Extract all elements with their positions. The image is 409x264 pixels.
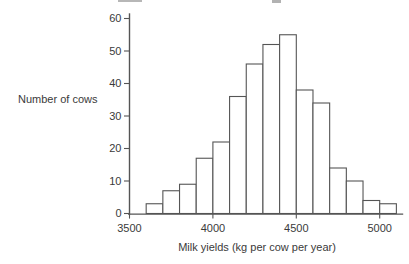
svg-text:20: 20 [109, 142, 121, 154]
histogram-bar [280, 35, 297, 214]
svg-text:40: 40 [109, 77, 121, 89]
histogram-bar [213, 142, 230, 214]
histogram-bar [196, 158, 213, 213]
histogram-bar [246, 64, 263, 214]
histogram-bar [263, 45, 280, 214]
histogram-bar [363, 201, 380, 214]
svg-text:10: 10 [109, 175, 121, 187]
histogram-bar [380, 204, 397, 214]
histogram-bar [146, 204, 163, 214]
svg-text:4000: 4000 [201, 222, 225, 234]
histogram-figure: Number of cows 0102030405060350040004500… [0, 0, 409, 264]
svg-text:5000: 5000 [367, 222, 391, 234]
histogram-bar [346, 181, 363, 214]
histogram-bar [180, 184, 197, 213]
svg-text:4500: 4500 [284, 222, 308, 234]
svg-text:30: 30 [109, 110, 121, 122]
histogram-bar [296, 90, 313, 214]
histogram-bar [313, 103, 330, 214]
svg-text:0: 0 [115, 207, 121, 219]
svg-text:3500: 3500 [117, 222, 141, 234]
x-axis-title: Milk yields (kg per cow per year) [129, 241, 385, 253]
svg-text:60: 60 [109, 12, 121, 24]
histogram-bar [330, 168, 347, 214]
histogram-bar [163, 191, 180, 214]
plot-svg: 01020304050603500400045005000 [0, 0, 409, 264]
svg-text:50: 50 [109, 45, 121, 57]
histogram-bar [230, 97, 247, 214]
